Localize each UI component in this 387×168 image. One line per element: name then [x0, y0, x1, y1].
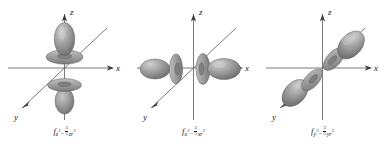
axis-label-x: x: [373, 63, 378, 73]
axis-label-z: z: [327, 7, 332, 17]
caption-sub-tail-exp: 2: [73, 128, 75, 133]
axis-label-y: y: [271, 112, 276, 122]
orbital-panel-fy3: z x y fy3−35yr2: [258, 0, 387, 168]
orbital-diagram-fx3: z x y: [129, 0, 258, 130]
orbital-panel-fz3: z x y fz3−35zr2: [0, 0, 129, 168]
caption-minus: −: [318, 131, 322, 137]
orbital-diagram-fz3: z x y: [0, 0, 129, 130]
axis-label-z: z: [198, 7, 203, 17]
axis-label-x: x: [244, 63, 249, 73]
orbital-diagram-fy3: z x y: [258, 0, 387, 130]
orbital-caption-fx3: fx3−35xr2: [129, 126, 258, 137]
caption-sub-tail-exp: 2: [332, 128, 334, 133]
caption-sub-tail-exp: 2: [203, 128, 205, 133]
orbital-panel-fx3: z x y fx3−35xr2: [129, 0, 258, 168]
caption-minus: −: [189, 131, 193, 137]
f-orbital-figure: z x y fz3−35zr2: [0, 0, 387, 168]
axis-label-x: x: [115, 63, 120, 73]
axis-label-y: y: [13, 112, 18, 122]
caption-minus: −: [60, 131, 64, 137]
axis-label-z: z: [69, 7, 74, 17]
orbital-caption-fz3: fz3−35zr2: [0, 126, 129, 137]
orbital-caption-fy3: fy3−35yr2: [258, 126, 387, 137]
axis-label-y: y: [142, 112, 147, 122]
